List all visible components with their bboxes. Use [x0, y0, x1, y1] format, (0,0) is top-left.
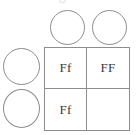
punnett-square-diagram: Ff FF Ff: [0, 0, 136, 135]
top-gamete-circle-2[interactable]: [92, 10, 127, 45]
left-gamete-circle-2[interactable]: [3, 89, 40, 128]
top-gamete-circle-1[interactable]: [50, 10, 85, 45]
punnett-cell-bottom-right[interactable]: [87, 89, 129, 130]
clipped-shape-artifact: [59, 0, 66, 3]
punnett-cell-top-left[interactable]: Ff: [45, 48, 87, 89]
punnett-cell-top-right[interactable]: FF: [87, 48, 129, 89]
punnett-grid: Ff FF Ff: [44, 47, 130, 131]
punnett-cell-bottom-left[interactable]: Ff: [45, 89, 87, 130]
left-gamete-circle-1[interactable]: [3, 48, 40, 85]
